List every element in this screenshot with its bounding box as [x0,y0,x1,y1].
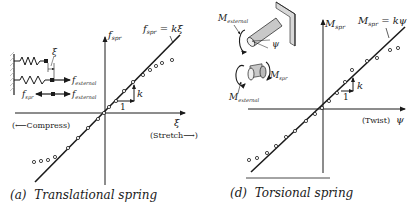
caption-title: Translational spring [34,188,157,202]
compress-note: (⟵Compress) [12,121,70,130]
line-equation: fspr = kξ [142,23,183,36]
y-axis-label: fspr [107,29,123,42]
y-axis-label: Mspr [324,18,346,31]
torsion-inset: ψ Mexternal Mspr Mexternal [217,2,295,103]
force-spring-label: fspr [21,89,34,101]
moment-external2-label: Mexternal [228,92,260,103]
data-points [32,58,173,163]
line-equation: Mspr = kψ [357,15,407,28]
caption-torsional: (d) Torsional spring [230,186,353,200]
slope-run-label: 1 [120,102,126,112]
caption-letter: (d) [230,186,247,200]
slope-rise-label: k [137,88,143,99]
spring-inset: ξ fexternal fspr fexternal [10,47,97,101]
force-external2-label: fexternal [71,89,97,100]
stretch-note: (Stretch⟶) [150,131,198,140]
x-axis-label: ψ [396,114,404,125]
displacement-label: ξ [52,47,58,57]
angle-label: ψ [272,39,280,49]
caption-letter: (a) [10,188,27,202]
spring-diagrams: fspr fspr = kξ 1 k ξ (Stretch⟶) (⟵Compre… [0,0,411,210]
slope-triangle: 1 k [116,85,143,112]
x-axis-label: ξ [174,117,180,128]
spring-stretched [14,76,52,84]
moment-external-label: Mexternal [217,13,249,24]
twist-note: (Twist) [362,116,390,125]
caption-title: Torsional spring [255,186,354,200]
equation-leader [386,28,389,38]
spring-rest [14,57,46,65]
slope-run-label: 1 [343,92,349,102]
caption-translational: (a) Translational spring [10,188,157,202]
panel-torsional: Mspr Mspr = kψ 1 k (Twist) ψ [217,2,407,178]
force-external-label: fexternal [71,75,97,86]
panel-translational: fspr fspr = kξ 1 k ξ (Stretch⟶) (⟵Compre… [10,23,198,185]
slope-rise-label: k [357,80,363,91]
moment-spring-label: Mspr [269,70,288,82]
linear-fit-line [35,35,180,182]
equation-leader [170,36,173,43]
